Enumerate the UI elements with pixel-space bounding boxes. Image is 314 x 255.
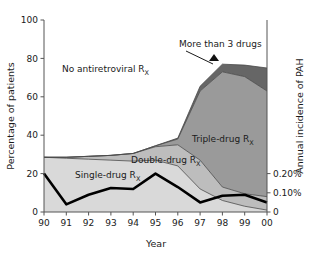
- area-chart: 020406080100 9091929394959697989900 00.1…: [0, 0, 314, 255]
- single-drug-label-sub: X: [136, 175, 141, 183]
- triple-drug-label-text: Triple-drug R: [191, 134, 249, 144]
- x-axis-title: Year: [145, 238, 166, 249]
- callout-triangle-marker: [209, 54, 219, 61]
- more-than-3-drugs-annotation: More than 3 drugs: [179, 39, 262, 64]
- y-tick-label: 40: [27, 130, 39, 140]
- double-drug-label-text: Double-drug R: [131, 155, 196, 165]
- svg-text:No antiretroviral RX: No antiretroviral RX: [62, 64, 150, 77]
- x-tick-label: 90: [38, 218, 50, 228]
- y-axis-left-title: Percentage of patients: [5, 62, 16, 169]
- y-axis-right-title: Annual incidence of PAH: [294, 58, 305, 174]
- double-drug-label-sub: X: [196, 160, 201, 168]
- chart-container: 020406080100 9091929394959697989900 00.1…: [0, 0, 314, 255]
- x-tick-label: 93: [105, 218, 116, 228]
- y-axis-right-ticks: 00.10%0.20%: [267, 169, 302, 217]
- x-axis-ticks: 9091929394959697989900: [38, 212, 273, 228]
- x-tick-label: 92: [83, 218, 94, 228]
- x-tick-label: 98: [217, 218, 229, 228]
- x-tick-label: 95: [150, 218, 161, 228]
- x-tick-label: 96: [172, 218, 184, 228]
- y2-tick-label: 0: [273, 207, 279, 217]
- x-tick-label: 00: [261, 218, 273, 228]
- y-tick-label: 20: [27, 169, 39, 179]
- no-antiretroviral-label-sub: X: [145, 69, 150, 77]
- y-tick-label: 100: [21, 15, 38, 25]
- y-tick-label: 60: [27, 92, 39, 102]
- x-tick-label: 91: [61, 218, 72, 228]
- more-than-3-drugs-label: More than 3 drugs: [179, 39, 262, 49]
- area-label-no-antiretroviral: No antiretroviral RX: [62, 64, 150, 77]
- y-tick-label: 80: [27, 54, 39, 64]
- y2-tick-label: 0.10%: [273, 188, 302, 198]
- triple-drug-label-sub: X: [249, 139, 254, 147]
- callout-leader-line: [186, 51, 213, 64]
- x-tick-label: 97: [194, 218, 205, 228]
- y-tick-label: 0: [32, 207, 38, 217]
- x-tick-label: 94: [127, 218, 139, 228]
- single-drug-label-text: Single-drug R: [75, 170, 136, 180]
- x-tick-label: 99: [239, 218, 251, 228]
- no-antiretroviral-label-text: No antiretroviral R: [62, 64, 145, 74]
- y-axis-left-ticks: 020406080100: [21, 15, 44, 217]
